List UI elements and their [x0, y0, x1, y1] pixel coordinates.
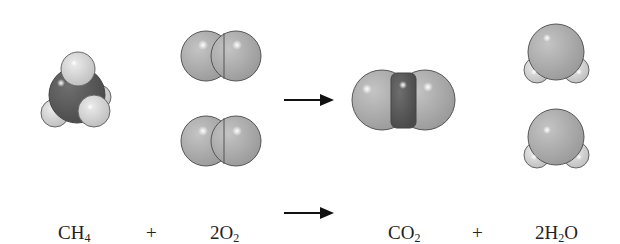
oxygen-molecule [181, 31, 261, 81]
plus-sign: + [472, 222, 483, 244]
formula-methane: CH4 [58, 222, 90, 244]
formula-water: 2H2O [535, 222, 578, 244]
reaction-diagram [0, 0, 620, 244]
formula-oxygen: 2O2 [210, 222, 239, 244]
plus-sign: + [146, 222, 157, 244]
reaction-arrow-icon [284, 207, 334, 219]
hydrogen-atom [61, 52, 95, 86]
hydrogen-atom [78, 95, 110, 127]
carbon-dioxide-molecule [352, 70, 455, 130]
oxygen-molecule [181, 116, 261, 166]
methane-molecule [41, 52, 111, 127]
water-molecule [524, 24, 589, 83]
formula-carbon-dioxide: CO2 [388, 222, 420, 244]
water-molecule [524, 109, 589, 168]
arrow-icon [284, 94, 334, 106]
